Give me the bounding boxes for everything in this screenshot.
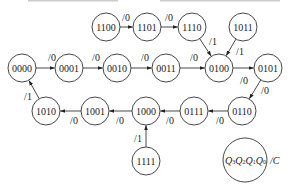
state-label: 1110 (182, 22, 201, 33)
cropped-text-line (28, 0, 280, 2)
legend: Q3Q2Q1Q0 /C (223, 138, 280, 182)
state-node-1101: 1101 (133, 13, 161, 41)
state-label: 1001 (85, 106, 105, 117)
legend-state-vars: Q3Q2Q1Q0 (225, 155, 266, 166)
state-label: 0001 (59, 63, 79, 74)
state-node-1000: 1000 (132, 97, 160, 125)
state-label: 0000 (12, 63, 32, 74)
state-node-0110: 0110 (228, 97, 256, 125)
state-node-1111: 1111 (132, 147, 160, 175)
state-label: 0111 (184, 106, 203, 117)
transition-label: /1 (24, 91, 32, 102)
transition-1011-to-0100 (226, 39, 236, 55)
legend-output-label: /C (269, 155, 280, 166)
state-node-1110: 1110 (178, 13, 206, 41)
state-node-0010: 0010 (103, 54, 131, 82)
transition-label: /0 (122, 12, 130, 23)
state-label: 1100 (96, 22, 116, 33)
state-label: 0110 (232, 106, 252, 117)
state-node-1011: 1011 (229, 13, 257, 41)
state-label: 1101 (137, 22, 157, 33)
state-label: 1010 (36, 106, 56, 117)
state-label: 1000 (136, 106, 156, 117)
state-node-0000: 0000 (8, 54, 36, 82)
transition-label: /0 (165, 12, 173, 23)
state-label: 1011 (233, 22, 253, 33)
transition-label: /1 (236, 46, 244, 57)
transition-label: /0 (70, 115, 78, 126)
transition-label: /0 (92, 52, 100, 63)
transition-label: /0 (216, 115, 224, 126)
state-node-1100: 1100 (92, 13, 120, 41)
transition-label: /1 (209, 36, 217, 47)
state-label: 1111 (137, 156, 156, 167)
transition-label: /0 (48, 52, 56, 63)
state-diagram: /0/0/1/1/0/0/0/0/0/0/0/0/0/0/1/1 1100110… (0, 0, 293, 193)
state-node-0111: 0111 (180, 97, 208, 125)
state-node-1010: 1010 (32, 97, 60, 125)
state-label: 0101 (258, 63, 278, 74)
transition-label: /0 (261, 85, 269, 96)
state-node-0100: 0100 (205, 54, 233, 82)
transition-label: /0 (141, 52, 149, 63)
transition-label: /0 (166, 115, 174, 126)
transition-0101-to-0110 (250, 80, 261, 99)
state-node-1001: 1001 (81, 97, 109, 125)
transition-label: /0 (190, 52, 198, 63)
state-label: 0011 (156, 63, 176, 74)
state-node-0101: 0101 (254, 54, 282, 82)
transition-label: /0 (240, 75, 248, 86)
state-label: 0100 (209, 63, 229, 74)
state-label: 0010 (107, 63, 127, 74)
transition-label: /0 (116, 115, 124, 126)
state-node-0001: 0001 (55, 54, 83, 82)
state-node-0011: 0011 (152, 54, 180, 82)
transition-label: /1 (134, 133, 142, 144)
